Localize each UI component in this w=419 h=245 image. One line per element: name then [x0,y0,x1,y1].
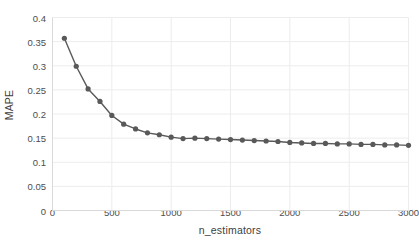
series-line-mape [64,38,408,145]
data-point [358,142,363,147]
data-point [180,136,185,141]
data-point [109,113,114,118]
data-point [169,135,174,140]
data-point [323,141,328,146]
x-axis-title: n_estimators [52,224,408,236]
data-point [228,137,233,142]
data-point [145,130,150,135]
data-point [370,142,375,147]
data-point [157,132,162,137]
data-point [204,136,209,141]
data-point [86,86,91,91]
data-point [275,139,280,144]
data-point [97,99,102,104]
data-point [133,126,138,131]
data-point [216,136,221,141]
data-point [335,141,340,146]
data-point [311,141,316,146]
data-point [252,138,257,143]
data-point [264,138,269,143]
data-point [406,143,411,148]
data-point [394,142,399,147]
data-point [299,140,304,145]
data-point [62,36,67,41]
series-markers-mape [62,36,411,148]
data-point [347,141,352,146]
data-point [240,137,245,142]
data-point [74,64,79,69]
data-point [382,142,387,147]
x-axis-title-label: n_estimators [199,224,262,236]
data-point [121,122,126,127]
grid-lines [53,18,409,211]
data-point [287,140,292,145]
data-point [192,136,197,141]
